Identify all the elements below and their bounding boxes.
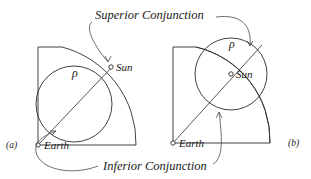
panel-b-sun-label: Sun bbox=[236, 68, 253, 80]
panel-a-rho-label: ρ bbox=[71, 66, 78, 80]
panel-b: Earth Sun ρ (b) bbox=[171, 37, 299, 149]
panel-b-caption: (b) bbox=[288, 138, 299, 149]
conjunction-diagram: Earth Sun ρ (a) Earth Sun ρ (b) bbox=[0, 0, 311, 179]
panel-b-sight-line bbox=[173, 45, 262, 143]
figure-canvas: Earth Sun ρ (a) Earth Sun ρ (b) bbox=[0, 0, 311, 179]
panel-a: Earth Sun ρ (a) bbox=[6, 47, 136, 151]
panel-b-earth-label: Earth bbox=[178, 137, 205, 149]
superior-conjunction-label: Superior Conjunction bbox=[95, 8, 204, 22]
panel-b-rho-label: ρ bbox=[228, 37, 235, 51]
panel-b-sun-marker bbox=[229, 72, 233, 76]
panel-b-inner-arc bbox=[196, 47, 270, 143]
panel-a-earth-label: Earth bbox=[43, 139, 70, 151]
panel-a-sun-label: Sun bbox=[116, 61, 133, 73]
panel-b-deferent-sector bbox=[173, 47, 270, 143]
inferior-conjunction-label: Inferior Conjunction bbox=[102, 159, 207, 173]
inferior-leader-to-panel-b bbox=[213, 112, 221, 164]
panel-a-sun-marker bbox=[109, 65, 113, 69]
panel-b-earth-marker bbox=[171, 141, 175, 145]
superior-conjunction-annotation: Superior Conjunction bbox=[89, 8, 253, 62]
panel-a-caption: (a) bbox=[6, 140, 17, 151]
